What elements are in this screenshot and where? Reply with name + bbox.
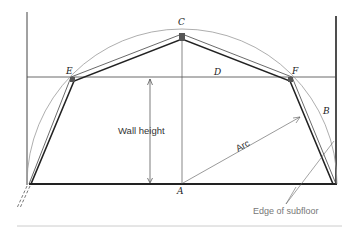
- gusset-f: [288, 77, 293, 82]
- dashed-extension-2: [17, 186, 27, 208]
- point-c-label: C: [178, 17, 185, 27]
- point-f-label: F: [291, 66, 299, 76]
- subfloor-leader-2: [286, 141, 334, 204]
- wall-height-label: Wall height: [118, 125, 165, 136]
- gusset-e: [70, 77, 75, 82]
- rafter-outer: [29, 34, 336, 184]
- gusset-c: [179, 33, 185, 41]
- point-a-label: A: [176, 186, 184, 196]
- dashed-extension-1: [20, 186, 30, 208]
- point-b-label: B: [322, 106, 330, 116]
- point-d-label: D: [213, 67, 221, 77]
- gambrel-roof-diagram: C E D F A B Wall height Arc Edge of subf…: [0, 0, 354, 227]
- edge-of-subfloor-label: Edge of subfloor: [253, 206, 319, 216]
- subfloor-leader-1: [286, 187, 296, 204]
- arc-label: Arc: [234, 137, 252, 154]
- point-e-label: E: [65, 66, 73, 76]
